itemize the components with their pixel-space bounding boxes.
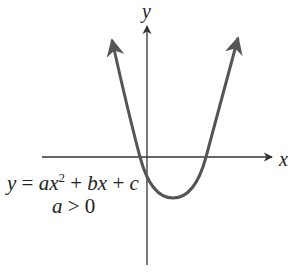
cond-a: a bbox=[52, 194, 63, 218]
condition-label: a > 0 bbox=[52, 194, 95, 219]
cond-gt: > bbox=[63, 194, 85, 218]
eq-x: x bbox=[49, 171, 58, 195]
eq-y: y bbox=[7, 171, 16, 195]
equation-label: y = ax2 + bx + c bbox=[7, 170, 139, 196]
eq-plus: + bbox=[65, 171, 87, 195]
eq-c: c bbox=[130, 171, 139, 195]
eq-b: b bbox=[87, 171, 98, 195]
y-axis-label: y bbox=[140, 0, 151, 23]
eq-x2: x bbox=[98, 171, 107, 195]
eq-equals: = bbox=[16, 171, 38, 195]
eq-plus2: + bbox=[107, 171, 129, 195]
eq-a: a bbox=[39, 171, 50, 195]
x-axis-label: x bbox=[278, 148, 288, 170]
parabola-curve-right bbox=[173, 38, 238, 198]
parabola-diagram: y x bbox=[0, 0, 292, 272]
cond-zero: 0 bbox=[85, 194, 96, 218]
